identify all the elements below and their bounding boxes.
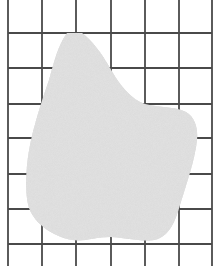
grid-area-diagram — [0, 0, 216, 266]
grid-figure — [0, 0, 216, 266]
